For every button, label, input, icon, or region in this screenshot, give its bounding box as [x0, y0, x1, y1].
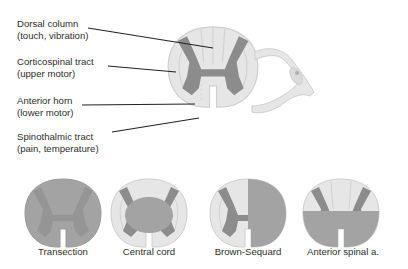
label-dorsal-column: Dorsal column (touch, vibration)	[17, 18, 88, 42]
lesion-brown-sequard-section	[210, 179, 286, 247]
nerve-root	[252, 49, 314, 113]
lesion-anterior-spinal-section	[303, 179, 379, 247]
main-cord-section	[168, 27, 258, 107]
caption-anterior-spinal: Anterior spinal a.	[293, 246, 393, 257]
label-spinothalmic-tract: Spinothalmic tract (pain, temperature)	[17, 131, 99, 155]
lesion-central-cord-section	[111, 179, 187, 247]
label-anterior-horn: Anterior horn (lower motor)	[17, 95, 74, 119]
caption-transection: Transection	[23, 246, 103, 257]
caption-brown-sequard: Brown-Sequard	[203, 246, 293, 257]
label-corticospinal-tract: Corticospinal tract (upper motor)	[17, 56, 94, 80]
lesion-transection-section	[25, 179, 101, 247]
caption-central-cord: Central cord	[109, 246, 189, 257]
